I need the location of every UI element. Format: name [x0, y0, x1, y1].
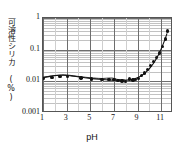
- data-point: [137, 77, 140, 80]
- data-point: [100, 78, 103, 81]
- data-point: [149, 64, 152, 67]
- data-point: [79, 76, 82, 79]
- data-point: [116, 79, 119, 82]
- data-point: [155, 56, 158, 59]
- data-point: [107, 78, 110, 81]
- y-tick-label: 1: [6, 13, 40, 21]
- data-point: [158, 51, 161, 54]
- data-point: [140, 74, 143, 77]
- plot-area: [42, 17, 172, 112]
- data-point: [42, 77, 45, 80]
- x-tick-label: 5: [80, 113, 98, 122]
- x-tick-label: 11: [151, 113, 169, 122]
- y-tick-label: 0.01: [6, 76, 40, 84]
- data-point: [166, 29, 169, 32]
- x-tick-label: 3: [57, 113, 75, 122]
- data-point: [58, 75, 61, 78]
- data-point: [164, 37, 167, 40]
- data-point: [161, 45, 164, 48]
- data-point: [66, 75, 69, 78]
- chart-figure: 可溶性シリカ (%) 0.0010.010.11 1357911 pH: [0, 0, 184, 160]
- y-tick-label: 0.1: [6, 45, 40, 53]
- x-axis-tick-labels: 1357911: [0, 113, 184, 125]
- data-point: [143, 71, 146, 74]
- x-axis-title: pH: [0, 132, 184, 142]
- data-point: [124, 80, 127, 83]
- data-point: [152, 60, 155, 63]
- data-point: [146, 68, 149, 71]
- x-tick-label: 9: [128, 113, 146, 122]
- x-tick-label: 1: [33, 113, 51, 122]
- data-point: [112, 78, 115, 81]
- x-tick-label: 7: [104, 113, 122, 122]
- data-point: [50, 76, 53, 79]
- data-point: [90, 77, 93, 80]
- data-points: [43, 18, 171, 111]
